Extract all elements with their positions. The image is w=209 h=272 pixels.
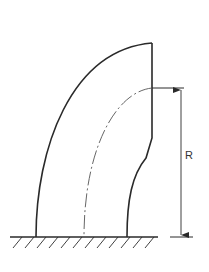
outer-contour: [36, 43, 152, 237]
bend-diagram: R: [0, 0, 209, 272]
ground-hatching: [13, 237, 154, 248]
radius-label: R: [185, 149, 193, 161]
inner-contour: [127, 43, 152, 237]
